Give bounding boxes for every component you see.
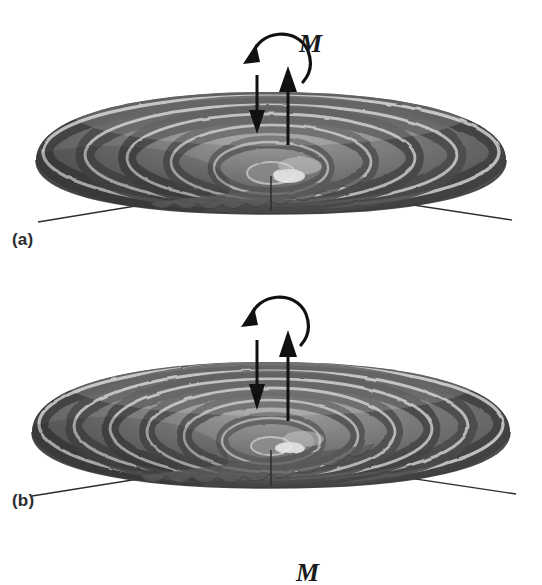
panel-b: M	[0, 264, 542, 529]
panel-label-b: (b)	[12, 492, 34, 509]
panel-b-plot	[0, 264, 542, 529]
panel-label-a: (a)	[12, 231, 33, 248]
moment-label-b: M	[296, 560, 319, 585]
panel-a-plot	[0, 0, 542, 265]
moment-label-a: M	[299, 31, 322, 57]
moment-curved-arrow-b	[241, 297, 308, 345]
panel-a: M	[0, 0, 542, 265]
